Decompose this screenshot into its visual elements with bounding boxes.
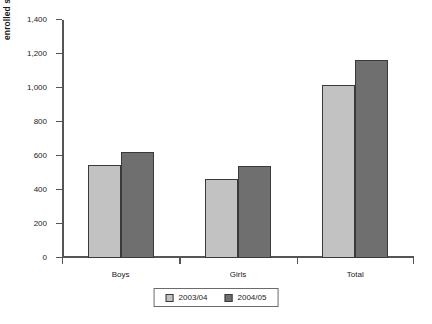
plot-area: 02004006008001,0001,2001,400BoysGirlsTot… (62, 20, 414, 258)
x-tick-2 (297, 258, 298, 264)
legend-item-series-1[interactable]: 2004/05 (225, 293, 267, 302)
x-tick-label-boys: Boys (61, 270, 181, 279)
x-tick-label-girls: Girls (178, 270, 298, 279)
legend: 2003/04 2004/05 (154, 288, 279, 307)
x-tick-label-total: Total (295, 270, 415, 279)
bar-girls-2003-04[interactable] (205, 179, 238, 258)
x-tick-0 (62, 258, 63, 264)
bar-girls-2004-05[interactable] (238, 166, 271, 258)
legend-item-series-0[interactable]: 2003/04 (166, 293, 208, 302)
y-tick-label-1200: 1,200 (27, 48, 47, 57)
legend-swatch-icon-series-0 (166, 294, 174, 302)
y-tick-label-0: 0 (43, 252, 47, 261)
bar-group-boys: Boys (62, 20, 179, 258)
bar-boys-2003-04[interactable] (88, 165, 121, 259)
y-axis-title: enrolled students (thousand) (2, 0, 12, 60)
y-axis-title-wrap: enrolled students (thousand) (0, 0, 22, 260)
legend-label-series-1: 2004/05 (238, 293, 267, 302)
y-tick-label-400: 400 (34, 184, 47, 193)
bar-total-2003-04[interactable] (322, 85, 355, 258)
y-tick-label-1000: 1,000 (27, 82, 47, 91)
bar-boys-2004-05[interactable] (121, 152, 154, 258)
y-tick-label-1400: 1,400 (27, 14, 47, 23)
y-tick-label-200: 200 (34, 218, 47, 227)
bar-group-girls: Girls (179, 20, 296, 258)
y-tick-label-600: 600 (34, 150, 47, 159)
x-tick-3 (413, 258, 414, 264)
y-tick-label-800: 800 (34, 116, 47, 125)
bar-total-2004-05[interactable] (355, 60, 388, 258)
legend-label-series-0: 2003/04 (179, 293, 208, 302)
bar-chart: enrolled students (thousand) 02004006008… (0, 0, 432, 324)
legend-swatch-icon-series-1 (225, 294, 233, 302)
x-tick-1 (179, 258, 180, 264)
bar-group-total: Total (297, 20, 414, 258)
